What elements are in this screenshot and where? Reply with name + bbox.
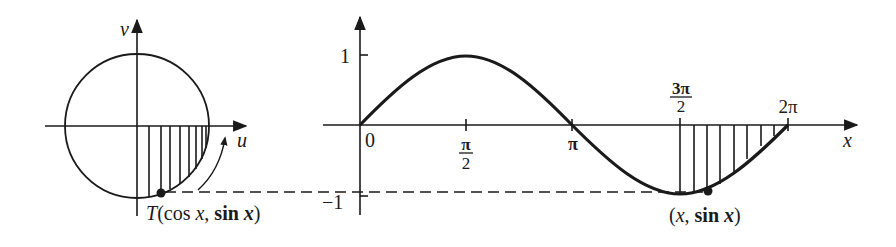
sine-hatch-lines [680,125,774,194]
point-T-label: T(cos x, sin x) [146,202,260,225]
x-axis-label: x [842,129,852,151]
point-T [157,189,166,198]
svg-text:3π: 3π [672,79,691,98]
svg-text:2: 2 [462,154,471,173]
sine-unit-circle-diagram: v u T(cos x, sin x) 1 −1 [0,0,896,247]
sine-graph-panel: 1 −1 0 π 2 π 3π 2 2π x (x, sin x) [322,17,857,227]
point-x-sinx [704,187,713,196]
y-tick-neg1-label: −1 [322,191,343,213]
y-tick-1-label: 1 [340,45,350,67]
x-tick-0-label: 0 [365,129,375,151]
x-tick-pi-label: π [568,134,578,154]
svg-text:2: 2 [677,97,686,116]
v-axis-label: v [120,18,129,40]
u-axis-label: u [237,129,247,151]
x-tick-2pi-label: 2π [778,96,798,117]
unit-circle-panel: v u T(cos x, sin x) [45,18,260,225]
svg-text:π: π [461,135,471,154]
x-tick-3pi-over-2-label: 3π 2 [670,79,692,116]
point-x-sinx-label: (x, sin x) [669,204,741,227]
x-tick-pi-over-2-label: π 2 [459,135,473,173]
